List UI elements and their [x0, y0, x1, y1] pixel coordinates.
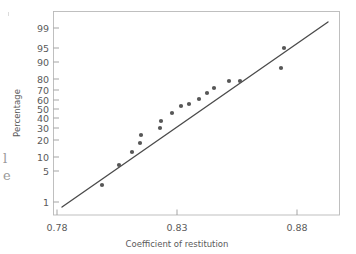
data-point [279, 66, 283, 70]
y-tick-label-95: 95 [37, 43, 49, 54]
data-point [100, 183, 104, 187]
data-point [158, 126, 162, 130]
x-axis-title: Coefficient of restitution [126, 239, 229, 249]
x-tick-label-083: 0.83 [166, 222, 187, 233]
x-tick-label-088: 0.88 [286, 222, 307, 233]
data-point [282, 46, 286, 50]
data-point [139, 133, 143, 137]
data-point [138, 141, 142, 145]
data-point [117, 163, 121, 167]
margin-text-line-2: e [3, 168, 11, 183]
data-point [227, 79, 231, 83]
plot-canvas: l e 99 95 90 80 70 [0, 0, 356, 254]
margin-speck [8, 12, 9, 16]
y-tick-label-10: 10 [37, 152, 49, 163]
y-axis-title: Percentage [12, 89, 22, 137]
data-point [187, 102, 191, 106]
y-tick-label-5: 5 [43, 166, 49, 177]
data-point [212, 86, 216, 90]
y-tick-label-99: 99 [37, 23, 49, 34]
data-point [205, 91, 209, 95]
y-tick-label-30: 30 [37, 123, 49, 134]
y-tick-label-90: 90 [37, 57, 49, 68]
x-tick-label-078: 0.78 [46, 222, 67, 233]
y-tick-label-1: 1 [43, 197, 49, 208]
data-point [159, 119, 163, 123]
data-point [197, 97, 201, 101]
normal-probability-plot-figure: l e 99 95 90 80 70 [0, 0, 356, 254]
data-point [238, 79, 242, 83]
margin-text-line-1: l [3, 151, 7, 166]
data-point [179, 104, 183, 108]
y-tick-label-20: 20 [37, 135, 49, 146]
y-tick-label-80: 80 [37, 74, 49, 85]
data-point [170, 111, 174, 115]
data-point [130, 150, 134, 154]
